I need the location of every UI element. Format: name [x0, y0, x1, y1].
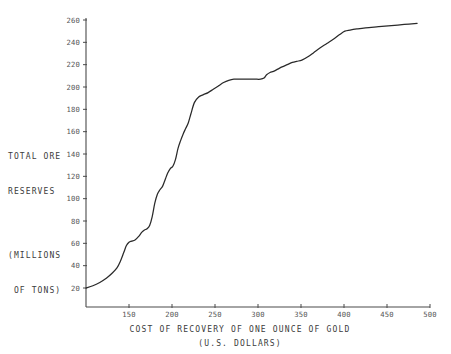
x-axis-subtitle: (U.S. DOLLARS) — [198, 339, 282, 348]
y-axis-title-spacer — [8, 220, 80, 227]
y-axis-title-line-3: (MILLIONS — [8, 250, 80, 262]
series-group — [86, 23, 417, 288]
y-tick-label: 220 — [66, 60, 80, 69]
x-axis-ticks: 150200250300350400450500 — [122, 304, 437, 319]
y-tick-label: 180 — [66, 105, 80, 114]
y-tick-label: 260 — [66, 16, 80, 25]
y-axis-title-line-1: TOTAL ORE — [8, 151, 80, 163]
ore-reserves-curve — [86, 23, 417, 288]
axes-group — [86, 18, 430, 307]
x-tick-label: 350 — [294, 310, 308, 319]
y-axis-title: TOTAL ORE RESERVES (MILLIONS OF TONS) — [8, 128, 80, 319]
x-tick-label: 300 — [251, 310, 265, 319]
y-tick-label: 200 — [66, 83, 80, 92]
x-tick-label: 450 — [380, 310, 394, 319]
y-axis-title-line-2: RESERVES — [8, 186, 80, 198]
x-tick-label: 400 — [337, 310, 351, 319]
x-tick-label: 250 — [208, 310, 222, 319]
y-tick-label: 240 — [66, 38, 80, 47]
x-tick-label: 500 — [423, 310, 437, 319]
chart-container: 20406080100120140160180200220240260 1502… — [0, 0, 451, 354]
x-tick-label: 200 — [165, 310, 179, 319]
x-axis-title: COST OF RECOVERY OF ONE OUNCE OF GOLD — [130, 325, 351, 334]
y-axis-title-line-4: OF TONS) — [8, 285, 80, 297]
x-tick-label: 150 — [122, 310, 136, 319]
